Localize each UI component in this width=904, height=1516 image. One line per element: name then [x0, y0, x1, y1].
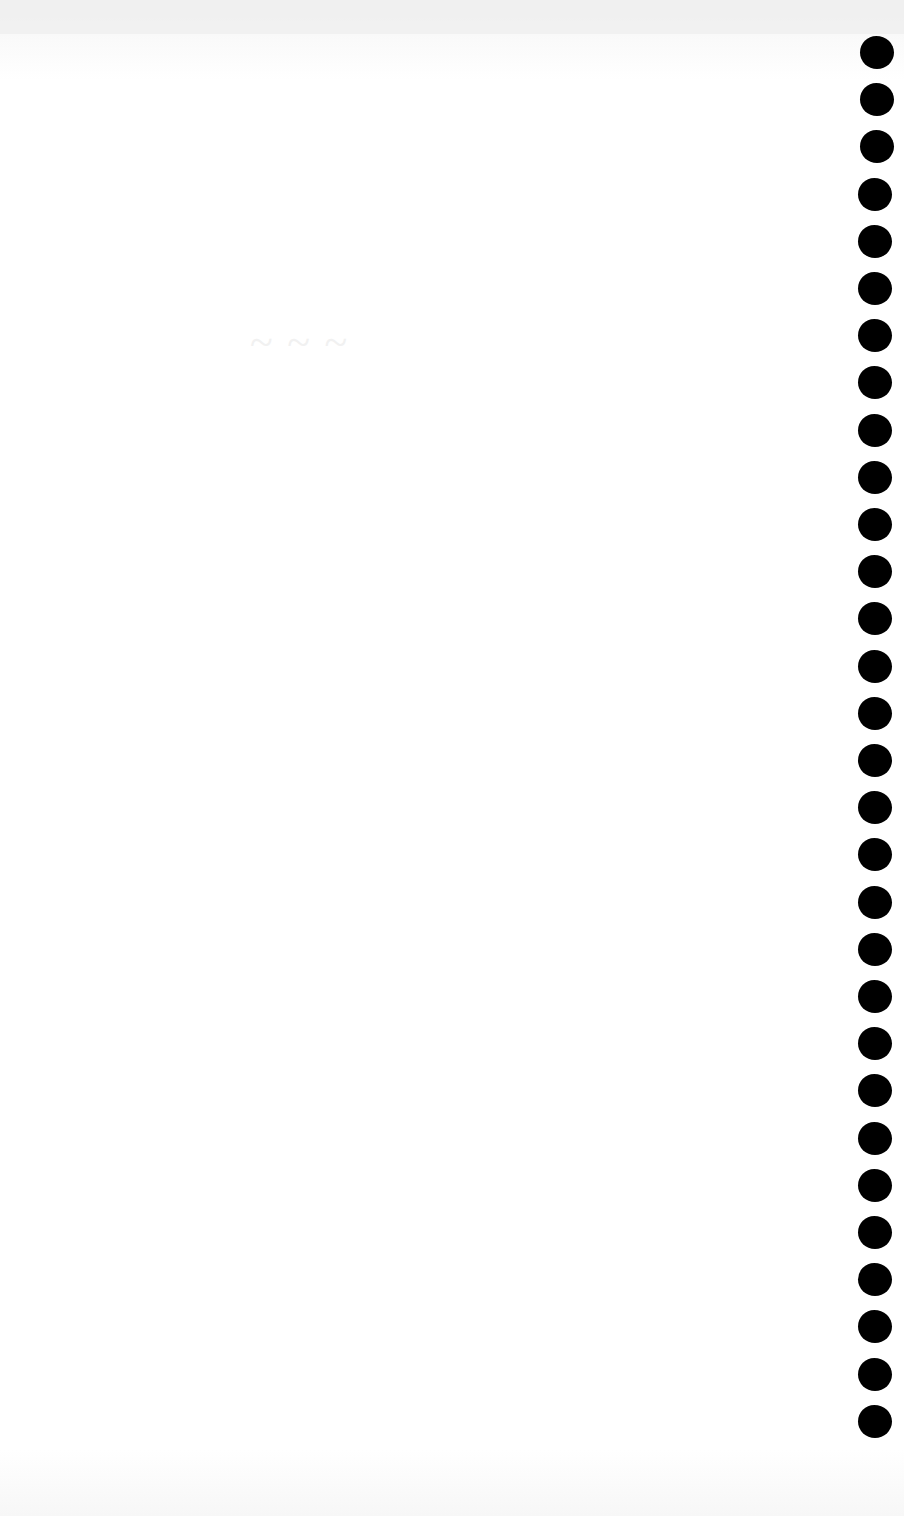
- binding-hole: [858, 838, 892, 871]
- binding-hole: [858, 886, 892, 919]
- binding-hole: [858, 980, 892, 1013]
- binding-hole: [858, 933, 892, 966]
- binding-hole: [858, 178, 892, 211]
- binding-hole: [858, 414, 892, 447]
- binding-hole: [858, 697, 892, 730]
- binding-hole: [858, 791, 892, 824]
- binding-hole: [858, 319, 892, 352]
- binding-hole: [858, 1169, 892, 1202]
- torn-top-edge: [0, 0, 904, 34]
- binding-hole: [858, 1405, 892, 1438]
- binding-hole: [858, 1358, 892, 1391]
- binding-hole: [858, 1216, 892, 1249]
- notebook-page: ~ ~ ~: [0, 0, 904, 1516]
- binding-hole: [858, 744, 892, 777]
- binding-hole: [858, 1263, 892, 1296]
- faint-show-through-text: ~ ~ ~: [250, 318, 349, 366]
- binding-hole: [858, 1310, 892, 1343]
- binding-hole: [860, 83, 894, 116]
- binding-hole: [858, 366, 892, 399]
- binding-hole: [858, 602, 892, 635]
- binding-hole: [858, 508, 892, 541]
- binding-hole: [858, 1122, 892, 1155]
- binding-hole: [858, 225, 892, 258]
- binding-hole: [860, 36, 894, 69]
- binding-hole: [860, 130, 894, 163]
- binding-hole: [858, 1027, 892, 1060]
- spiral-binding-holes: [856, 0, 896, 1516]
- binding-hole: [858, 461, 892, 494]
- binding-hole: [858, 555, 892, 588]
- binding-hole: [858, 1074, 892, 1107]
- binding-hole: [858, 650, 892, 683]
- binding-hole: [858, 272, 892, 305]
